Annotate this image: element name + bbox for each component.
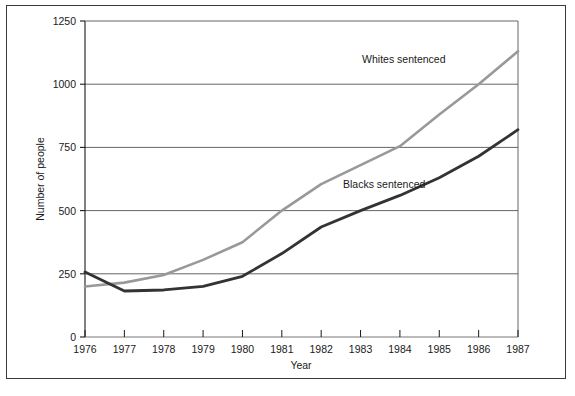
x-tick-label: 1986 <box>467 343 491 355</box>
series-label-whites: Whites sentenced <box>362 53 446 65</box>
x-tick-label: 1977 <box>113 343 137 355</box>
x-axis-title: Year <box>290 359 312 371</box>
x-tick-label: 1985 <box>428 343 452 355</box>
x-tick-label: 1981 <box>270 343 294 355</box>
y-axis-ticks <box>80 21 85 337</box>
x-tick-label: 1982 <box>310 343 334 355</box>
x-tick-label: 1980 <box>231 343 255 355</box>
line-chart: 025050075010001250 197619771978197919801… <box>0 0 575 396</box>
y-tick-label: 0 <box>70 331 76 343</box>
series-label-blacks: Blacks sentenced <box>343 178 425 190</box>
y-tick-label: 750 <box>58 141 76 153</box>
gridlines <box>85 84 518 274</box>
x-tick-label: 1979 <box>191 343 215 355</box>
x-tick-label: 1976 <box>73 343 97 355</box>
x-tick-label: 1987 <box>506 343 530 355</box>
y-tick-label: 500 <box>58 205 76 217</box>
x-axis-ticks <box>85 330 518 337</box>
y-axis-tick-labels: 025050075010001250 <box>53 15 77 343</box>
x-tick-label: 1984 <box>388 343 412 355</box>
x-tick-label: 1978 <box>152 343 176 355</box>
x-axis-tick-labels: 1976197719781979198019811982198319841985… <box>73 343 530 355</box>
y-tick-label: 250 <box>58 268 76 280</box>
x-tick-label: 1983 <box>349 343 373 355</box>
y-tick-label: 1250 <box>53 15 77 27</box>
figure-container: 025050075010001250 197619771978197919801… <box>0 0 575 396</box>
y-tick-label: 1000 <box>53 78 77 90</box>
y-axis-title: Number of people <box>34 137 46 221</box>
